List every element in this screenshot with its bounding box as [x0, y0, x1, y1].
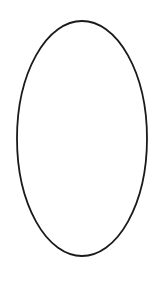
- ellipse-outline: [17, 21, 147, 256]
- diagram-svg: [0, 0, 165, 283]
- diagram-canvas: [0, 0, 165, 283]
